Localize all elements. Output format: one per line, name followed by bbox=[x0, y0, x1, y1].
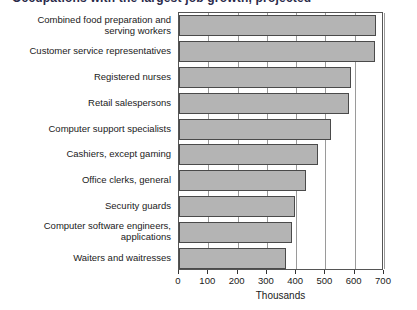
category-label: Customer service representatives bbox=[0, 45, 171, 56]
tick-mark-300 bbox=[266, 270, 267, 274]
tick-label-100: 100 bbox=[192, 275, 222, 286]
tick-label-200: 200 bbox=[222, 275, 252, 286]
bar-row bbox=[179, 144, 384, 165]
category-label: Security guards bbox=[0, 200, 171, 211]
tick-label-700: 700 bbox=[368, 275, 398, 286]
chart-title: Occupations with the largest job growth,… bbox=[12, 0, 311, 5]
bar bbox=[179, 196, 295, 217]
category-label: Registered nurses bbox=[0, 71, 171, 82]
bar-row bbox=[179, 119, 384, 140]
bar-row bbox=[179, 222, 384, 243]
plot-area bbox=[178, 12, 383, 270]
bar bbox=[179, 119, 331, 140]
category-label: Combined food preparation and serving wo… bbox=[0, 14, 171, 36]
category-label: Cashiers, except gaming bbox=[0, 148, 171, 159]
tick-mark-100 bbox=[207, 270, 208, 274]
tick-mark-600 bbox=[354, 270, 355, 274]
tick-mark-700 bbox=[383, 270, 384, 274]
bar-row bbox=[179, 93, 384, 114]
category-label: Computer support specialists bbox=[0, 123, 171, 134]
bar bbox=[179, 93, 349, 114]
tick-mark-0 bbox=[178, 270, 179, 274]
bar bbox=[179, 248, 286, 269]
x-axis-title: Thousands bbox=[178, 290, 383, 301]
category-label: Computer software engineers, application… bbox=[0, 220, 171, 242]
bar-row bbox=[179, 41, 384, 62]
category-label: Office clerks, general bbox=[0, 174, 171, 185]
tick-label-400: 400 bbox=[280, 275, 310, 286]
gridline-700 bbox=[384, 13, 385, 269]
bar bbox=[179, 41, 375, 62]
bar-row bbox=[179, 248, 384, 269]
bar-row bbox=[179, 67, 384, 88]
bar-row bbox=[179, 196, 384, 217]
category-label: Waiters and waitresses bbox=[0, 252, 171, 263]
bar-row bbox=[179, 15, 384, 36]
category-label-column: Combined food preparation and serving wo… bbox=[0, 12, 175, 270]
tick-label-600: 600 bbox=[339, 275, 369, 286]
tick-mark-200 bbox=[237, 270, 238, 274]
tick-label-500: 500 bbox=[309, 275, 339, 286]
bar bbox=[179, 67, 351, 88]
bar bbox=[179, 170, 306, 191]
bar-chart: Occupations with the largest job growth,… bbox=[0, 0, 417, 310]
bar bbox=[179, 144, 318, 165]
bar bbox=[179, 222, 292, 243]
tick-label-0: 0 bbox=[163, 275, 193, 286]
tick-mark-500 bbox=[324, 270, 325, 274]
tick-label-300: 300 bbox=[251, 275, 281, 286]
bar bbox=[179, 15, 376, 36]
category-label: Retail salespersons bbox=[0, 97, 171, 108]
tick-mark-400 bbox=[295, 270, 296, 274]
bar-row bbox=[179, 170, 384, 191]
chart-title-clipped: Occupations with the largest job growth,… bbox=[0, 0, 417, 8]
